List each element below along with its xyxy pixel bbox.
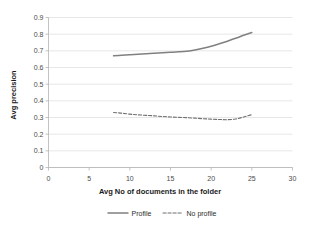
y-tick-label: 0.5 [34, 81, 44, 88]
x-tick-label: 30 [289, 175, 297, 182]
y-tick-label: 0.9 [34, 14, 44, 21]
y-tick-label: 0.1 [34, 147, 44, 154]
x-tick-label: 25 [248, 175, 256, 182]
x-tick-label: 5 [87, 175, 91, 182]
axes [49, 18, 293, 168]
y-tick-label: 0.4 [34, 97, 44, 104]
series-line-profile [114, 33, 252, 56]
gridlines [49, 18, 293, 168]
y-tick-label: 0.8 [34, 31, 44, 38]
x-axis-tick-labels: 051015202530 [47, 168, 297, 182]
x-tick-label: 10 [126, 175, 134, 182]
line-chart: 00.10.20.30.40.50.60.70.80.9 05101520253… [0, 0, 318, 230]
series-line-no-profile [114, 113, 252, 120]
data-series [114, 33, 252, 120]
chart-container: 00.10.20.30.40.50.60.70.80.9 05101520253… [0, 0, 318, 230]
y-tick-label: 0.2 [34, 131, 44, 138]
y-tick-label: 0.3 [34, 114, 44, 121]
legend-label-profile: Profile [132, 210, 152, 217]
y-tick-label: 0.7 [34, 47, 44, 54]
y-axis-title: Avg precision [9, 70, 18, 120]
x-tick-label: 0 [47, 175, 51, 182]
y-tick-label: 0.6 [34, 64, 44, 71]
y-axis-tick-labels: 00.10.20.30.40.50.60.70.80.9 [34, 14, 49, 171]
x-axis-title: Avg No of documents in the folder [99, 187, 221, 196]
chart-legend: ProfileNo profile [108, 210, 217, 218]
x-tick-label: 15 [167, 175, 175, 182]
x-tick-label: 20 [207, 175, 215, 182]
y-tick-label: 0 [40, 164, 44, 171]
legend-label-no-profile: No profile [187, 210, 217, 218]
